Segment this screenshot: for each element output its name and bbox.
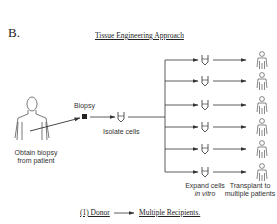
recipient-icon (257, 52, 267, 69)
recipient-icon (257, 141, 267, 158)
recipient-icon (257, 97, 267, 114)
label-biopsy: Biopsy (74, 102, 95, 110)
recipient-icon (257, 119, 267, 136)
label-transplant-line2: multiple patients (220, 190, 277, 198)
biopsy-sample-icon (82, 114, 87, 119)
isolate-tube-icon (118, 112, 124, 122)
label-obtain-line1: Obtain biopsy (6, 149, 66, 157)
label-obtain-biopsy: Obtain biopsy from patient (6, 149, 66, 165)
footer-donor: (1) Donor (80, 208, 110, 217)
label-transplant: Transplant to multiple patients (220, 182, 277, 198)
biopsy-arrow (30, 118, 80, 131)
label-transplant-line1: Transplant to (220, 182, 277, 190)
label-isolate-cells: Isolate cells (103, 128, 140, 136)
footer-recipients: Multiple Recipients. (139, 208, 200, 217)
recipient-icon (257, 164, 267, 181)
branches (165, 52, 267, 181)
recipient-icon (257, 73, 267, 90)
label-obtain-line2: from patient (6, 157, 66, 165)
patient-figure-icon (15, 97, 49, 140)
